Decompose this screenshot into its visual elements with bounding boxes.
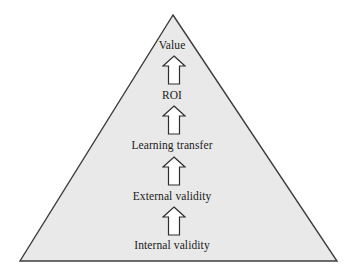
arrow-up-icon (162, 105, 186, 135)
diagram-canvas: Value ROI Learning transfer External val… (0, 0, 344, 273)
arrow-up-icon (162, 156, 186, 186)
pyramid-level-internal-validity: Internal validity (0, 239, 344, 252)
pyramid-level-external-validity: External validity (0, 190, 344, 203)
pyramid-level-roi: ROI (0, 89, 344, 102)
pyramid-content: Value ROI Learning transfer External val… (0, 0, 344, 273)
arrow-up-icon (162, 206, 186, 236)
pyramid-level-learning-transfer: Learning transfer (0, 139, 344, 152)
arrow-up-icon (162, 55, 186, 85)
pyramid-level-value: Value (0, 39, 344, 52)
